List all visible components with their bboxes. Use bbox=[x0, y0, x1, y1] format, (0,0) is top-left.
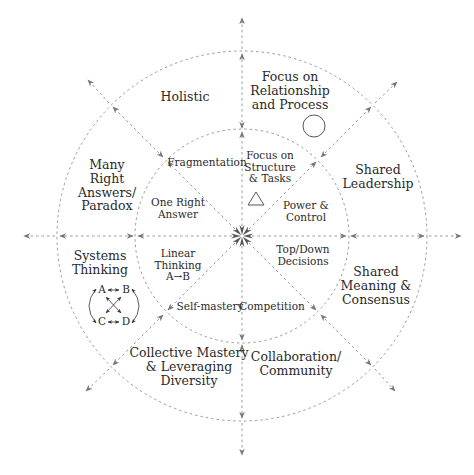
outer-label-shared-leadership: Shared Leadership bbox=[343, 163, 414, 191]
axis-arrows bbox=[24, 18, 461, 455]
outer-label-shared-meaning: Shared Meaning & Consensus bbox=[341, 265, 412, 306]
circle-icon bbox=[303, 115, 325, 137]
inner-label-focus-structure: Focus on Structure & Tasks bbox=[244, 150, 295, 185]
systems-abcd-icon: A B C D bbox=[89, 283, 139, 327]
outer-label-systems-thinking: Systems Thinking bbox=[72, 249, 128, 277]
node-d: D bbox=[122, 315, 130, 327]
node-c: C bbox=[98, 315, 106, 327]
outer-label-relationship-process: Focus on Relationship and Process bbox=[250, 70, 329, 111]
inner-label-linear-thinking: Linear Thinking A→B bbox=[154, 248, 201, 283]
inner-label-fragmentation: Fragmentation bbox=[167, 157, 246, 169]
inner-label-top-down: Top/Down Decisions bbox=[276, 244, 329, 267]
outer-label-holistic: Holistic bbox=[161, 90, 210, 104]
outer-label-collective-mastery: Collective Mastery & Leveraging Diversit… bbox=[129, 346, 248, 387]
paradigm-shift-diagram: A B C D Focus on Structure & Tasks Power… bbox=[0, 0, 474, 475]
node-b: B bbox=[122, 283, 130, 295]
inner-label-one-right-answer: One Right Answer bbox=[151, 197, 205, 220]
inner-label-competition: Competition bbox=[239, 301, 305, 313]
diagram-graphics: A B C D bbox=[0, 0, 474, 475]
inner-label-power-control: Power & Control bbox=[283, 200, 329, 223]
node-a: A bbox=[97, 283, 106, 295]
outer-label-collaboration: Collaboration/ Community bbox=[251, 350, 341, 378]
outer-label-many-right-answers: Many Right Answers/ Paradox bbox=[78, 158, 136, 213]
inner-label-self-mastery: Self-mastery bbox=[177, 301, 244, 313]
triangle-icon bbox=[248, 192, 264, 205]
